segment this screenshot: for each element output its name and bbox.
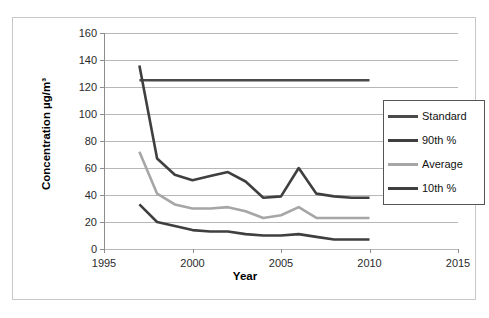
legend-swatch-icon: [388, 139, 418, 142]
legend-label: 90th %: [422, 134, 456, 146]
x-axis-title: Year: [13, 270, 477, 282]
series-line: [139, 65, 369, 197]
chart-frame: Concentration µg/m³ Year 020406080100120…: [12, 17, 476, 300]
legend-item[interactable]: Average: [384, 152, 484, 176]
legend-label: 10th %: [422, 182, 456, 194]
chart-figure: Concentration µg/m³ Year 020406080100120…: [0, 0, 489, 318]
y-tick-label: 0: [91, 243, 97, 255]
y-tick-label: 40: [85, 189, 97, 201]
y-tick-label: 140: [79, 54, 97, 66]
x-tick-label: 2005: [269, 257, 293, 269]
x-tick-label: 2015: [446, 257, 470, 269]
x-tick-label: 2010: [357, 257, 381, 269]
y-tick-label: 120: [79, 81, 97, 93]
legend-item[interactable]: Standard: [384, 104, 484, 128]
x-tick-mark: [104, 249, 105, 253]
x-tick-label: 2000: [180, 257, 204, 269]
legend-swatch-icon: [388, 115, 418, 118]
y-tick-label: 20: [85, 216, 97, 228]
x-tick-mark: [370, 249, 371, 253]
y-axis-title: Concentration µg/m³: [40, 34, 52, 234]
x-tick-mark: [458, 249, 459, 253]
chart-legend: Standard90th %Average10th %: [383, 100, 485, 205]
legend-swatch-icon: [388, 163, 418, 166]
x-tick-mark: [193, 249, 194, 253]
legend-swatch-icon: [388, 187, 418, 190]
y-tick-label: 60: [85, 162, 97, 174]
legend-item[interactable]: 90th %: [384, 128, 484, 152]
x-tick-label: 1995: [92, 257, 116, 269]
series-line: [139, 152, 369, 218]
legend-label: Standard: [422, 110, 467, 122]
y-tick-label: 160: [79, 27, 97, 39]
series-line: [139, 204, 369, 239]
x-tick-mark: [281, 249, 282, 253]
legend-label: Average: [422, 158, 463, 170]
legend-item[interactable]: 10th %: [384, 176, 484, 200]
y-tick-label: 100: [79, 108, 97, 120]
y-tick-label: 80: [85, 135, 97, 147]
